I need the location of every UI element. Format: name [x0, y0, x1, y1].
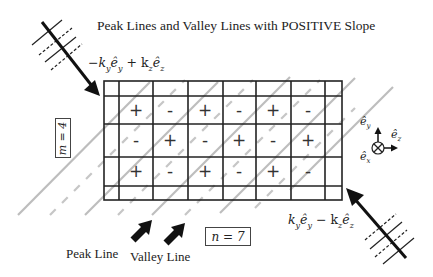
valley-line-pointer	[166, 223, 185, 243]
grid-cell-sign: -	[236, 163, 242, 180]
grid-cell-sign: -	[167, 102, 173, 119]
grid-cell-sign: +	[301, 132, 315, 149]
label-part: ê	[111, 55, 118, 70]
grid-cell-sign: -	[305, 163, 311, 180]
m-count-box: m = 4	[55, 118, 71, 158]
m-count-label: m = 4	[57, 121, 70, 155]
label-part: y	[367, 122, 371, 130]
diagram-title: Peak Lines and Valley Lines with POSITIV…	[97, 18, 375, 34]
grid-cell-sign: +	[266, 102, 280, 119]
grid-cell-sign: +	[198, 163, 212, 180]
grid-cell-sign: -	[202, 132, 208, 149]
grid-cell-sign: -	[167, 163, 173, 180]
label-part: z	[398, 135, 402, 143]
grid-cell-sign: -	[305, 102, 311, 119]
label-part: ê	[300, 212, 307, 227]
grid-cell-sign: +	[163, 132, 177, 149]
ez-label: êz	[391, 128, 401, 143]
incident-wave-vector-label: −kyêy + kzêz	[88, 55, 164, 73]
label-part: k	[288, 212, 296, 227]
grid-cell-sign: +	[129, 163, 143, 180]
reflected-wave-arrow	[346, 188, 414, 264]
ey-label: êy	[360, 115, 370, 130]
grid-cell-sign: +	[198, 102, 212, 119]
grid-cell-sign: -	[270, 132, 276, 149]
grid-cell-sign: +	[232, 132, 246, 149]
grid-cell-sign: -	[236, 102, 242, 119]
ex-label: êx	[360, 150, 370, 165]
label-part: ê	[342, 212, 349, 227]
label-part: − k	[312, 212, 338, 227]
n-count-label: n = 7	[211, 230, 244, 244]
grid-cell-sign: -	[133, 132, 139, 149]
grid-cell-sign: +	[129, 102, 143, 119]
label-part: x	[367, 157, 371, 165]
grid-cell-sign: +	[266, 163, 280, 180]
label-part: −k	[88, 55, 106, 70]
n-count-box: n = 7	[205, 227, 251, 246]
label-part: + k	[123, 55, 149, 70]
label-part: z	[350, 221, 354, 230]
peak-line-pointer	[133, 220, 152, 240]
label-part: z	[160, 64, 164, 73]
valley-line-label: Valley Line	[130, 249, 190, 265]
reflected-wave-vector-label: kyêy − kzêz	[288, 212, 354, 230]
peak-line-label: Peak Line	[66, 246, 118, 262]
